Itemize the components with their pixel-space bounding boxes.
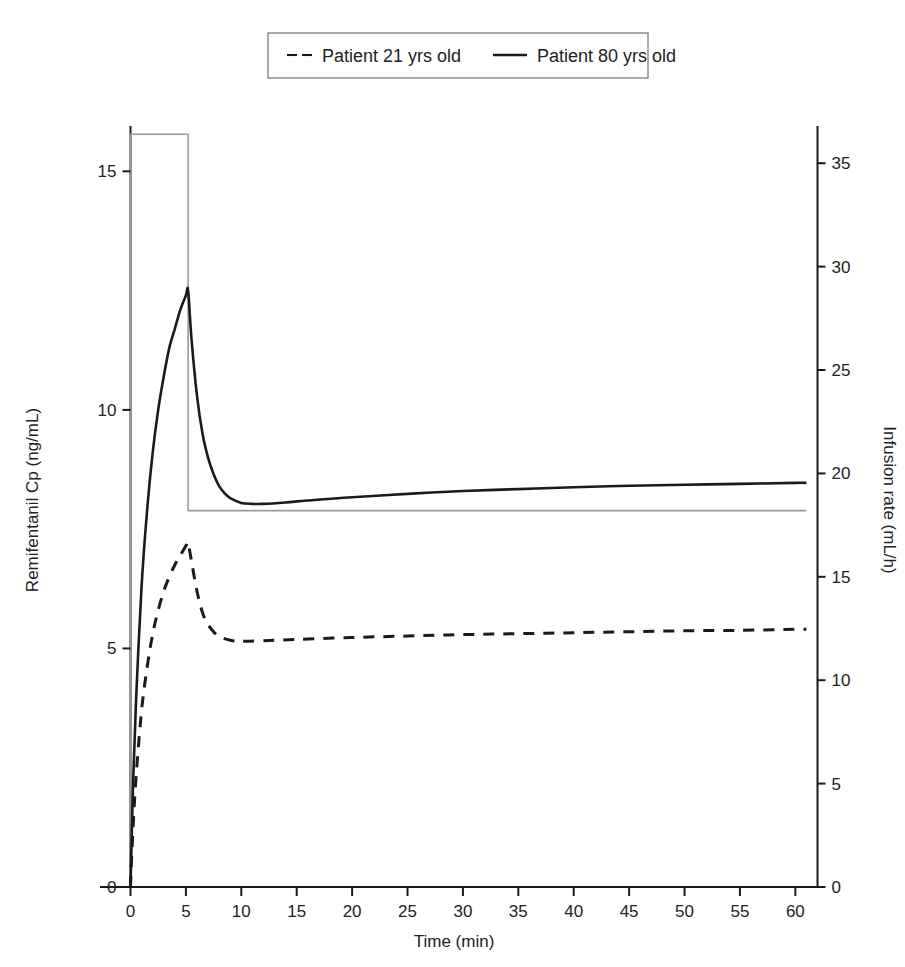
- series-patient-21: [131, 542, 807, 887]
- y-axis-right-ticks: 05101520253035: [818, 154, 851, 897]
- y-axis-right-tick-label: 0: [832, 878, 841, 897]
- series-infusion-rate-step: [131, 134, 807, 887]
- x-axis-tick-label: 35: [509, 902, 528, 921]
- chart-figure: Patient 21 yrs old Patient 80 yrs old 05…: [0, 0, 905, 967]
- y-axis-right-tick-label: 15: [832, 568, 851, 587]
- y-axis-right-tick-label: 30: [832, 258, 851, 277]
- x-axis-tick-label: 25: [398, 902, 417, 921]
- y-axis-left-tick-label: 10: [98, 401, 117, 420]
- x-axis-tick-label: 30: [453, 902, 472, 921]
- y-axis-left-tick-label: 15: [98, 162, 117, 181]
- x-axis-tick-label: 15: [287, 902, 306, 921]
- x-axis-title: Time (min): [414, 932, 495, 951]
- x-axis-tick-label: 60: [786, 902, 805, 921]
- y-axis-right-tick-label: 20: [832, 464, 851, 483]
- chart-series-layer: [131, 134, 807, 887]
- x-axis-tick-label: 50: [675, 902, 694, 921]
- y-axis-right-tick-label: 10: [832, 671, 851, 690]
- legend-label-patient-21: Patient 21 yrs old: [322, 46, 461, 66]
- y-axis-left-tick-label: 5: [107, 639, 116, 658]
- x-axis-tick-label: 10: [232, 902, 251, 921]
- x-axis-tick-label: 0: [126, 902, 135, 921]
- legend-label-patient-80: Patient 80 yrs old: [537, 46, 676, 66]
- chart-axes: [100, 126, 818, 888]
- y-axis-left-title: Remifentanil Cp (ng/mL): [23, 408, 42, 592]
- x-axis-tick-label: 5: [181, 902, 190, 921]
- series-patient-80: [131, 288, 807, 887]
- y-axis-left-tick-label: 0: [107, 878, 116, 897]
- chart-legend: Patient 21 yrs old Patient 80 yrs old: [268, 33, 676, 78]
- x-axis-tick-label: 40: [564, 902, 583, 921]
- chart-canvas: Patient 21 yrs old Patient 80 yrs old 05…: [0, 0, 905, 967]
- y-axis-right-tick-label: 35: [832, 154, 851, 173]
- y-axis-left-ticks: 051015: [98, 162, 131, 897]
- x-axis-tick-label: 20: [343, 902, 362, 921]
- y-axis-right-tick-label: 5: [832, 775, 841, 794]
- x-axis-tick-label: 45: [620, 902, 639, 921]
- y-axis-right-title: Infusion rate (mL/h): [880, 426, 899, 573]
- x-axis-ticks: 051015202530354045505560: [126, 887, 805, 921]
- y-axis-right-tick-label: 25: [832, 361, 851, 380]
- x-axis-tick-label: 55: [730, 902, 749, 921]
